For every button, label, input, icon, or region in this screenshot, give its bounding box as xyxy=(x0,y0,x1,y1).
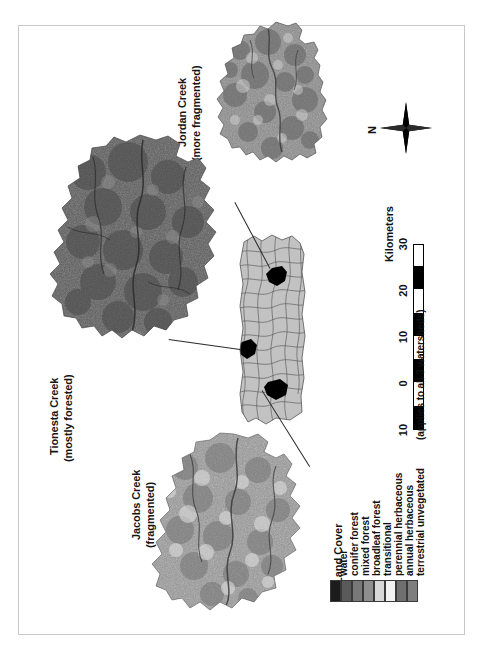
watershed-map-jordan-creek xyxy=(210,20,345,180)
watershed-label-jacobs-creek-descriptor: (fragmented) xyxy=(144,482,156,548)
legend-swatch-perennial-herbaceous xyxy=(385,580,396,602)
figure-root: Jordan Creek (more fragmented) xyxy=(0,0,484,659)
scale-bar-tick-0: 10 xyxy=(397,424,409,436)
scale-bar-tick-1: 0 xyxy=(397,380,409,386)
watershed-label-jacobs-creek-name: Jacobs Creek xyxy=(130,470,142,540)
north-arrow-icon xyxy=(378,100,434,160)
legend-swatch-broadleaf-forest xyxy=(363,580,374,602)
legend-swatch-mixed-forest xyxy=(352,580,363,602)
watershed-label-tionesta-creek-name: Tionesta Creek xyxy=(48,378,60,455)
legend-label-perennial-herbaceous: perennial herbaceous xyxy=(393,473,404,576)
scale-bar-units-label: Kilometers xyxy=(383,206,395,262)
scale-bar-note: (applies to all 3 watersheds) xyxy=(415,310,426,440)
scale-bar-tick-3: 20 xyxy=(397,284,409,296)
scale-bar-tick-4: 30 xyxy=(397,238,409,250)
north-arrow-label: N xyxy=(366,126,378,134)
legend-swatch-water xyxy=(330,580,341,602)
watershed-map-tionesta-creek xyxy=(48,132,223,347)
scale-bar-tick-labels: 10 0 10 20 30 xyxy=(397,244,411,430)
scale-bar-tick-2: 10 xyxy=(397,331,409,343)
legend-label-water: water xyxy=(338,550,349,576)
scale-bar-segment-4 xyxy=(414,266,423,289)
legend-swatch-conifer-forest xyxy=(341,580,352,602)
legend-swatch-terrestrial-unvegetated xyxy=(407,580,418,602)
legend-label-transitional: transitional xyxy=(382,522,393,576)
legend-label-mixed-forest: mixed forest xyxy=(360,517,371,576)
legend-swatch-transitional xyxy=(374,580,385,602)
watershed-map-jacobs-creek xyxy=(150,432,315,617)
watershed-label-tionesta-creek-descriptor: (mostly forested) xyxy=(62,374,74,462)
legend-label-terrestrial-unvegetated: terrestrial unvegetated xyxy=(415,468,426,576)
legend-swatch-annual-herbaceous xyxy=(396,580,407,602)
legend-label-broadleaf-forest: broadleaf forest xyxy=(371,500,382,576)
legend-label-annual-herbaceous: annual herbaceous xyxy=(404,485,415,576)
legend-label-conifer-forest: conifer forest xyxy=(349,512,360,576)
